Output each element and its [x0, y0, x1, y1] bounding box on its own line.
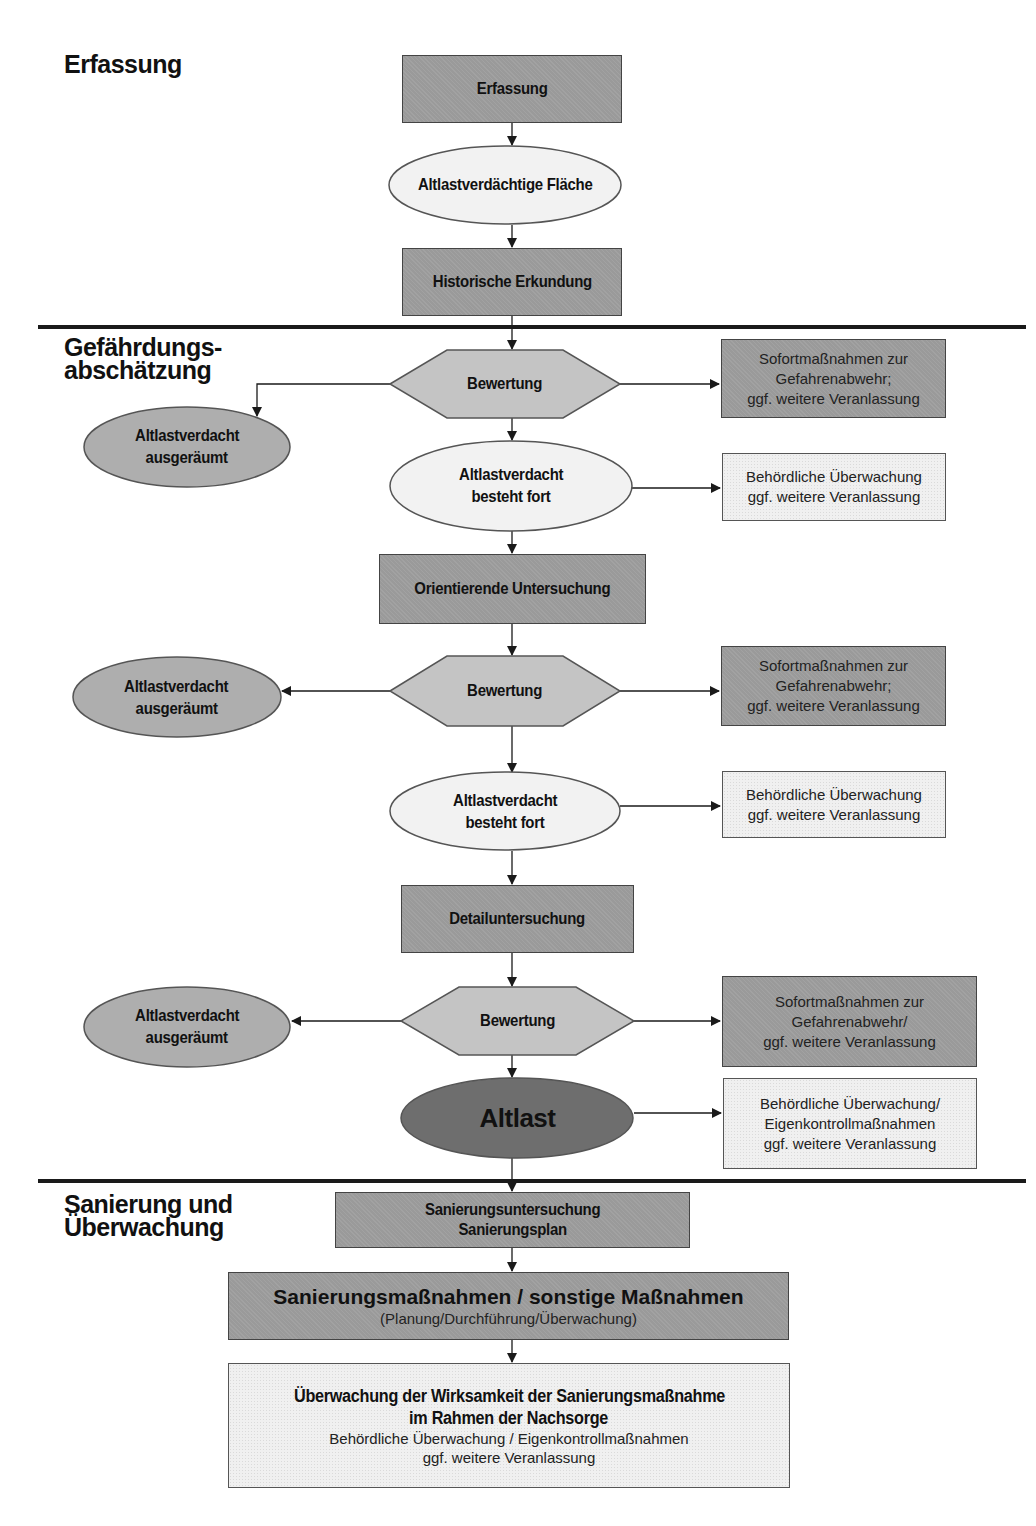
- ellipse-besteht-fort-1: [390, 441, 632, 531]
- box-sofortmassnahmen-1: Sofortmaßnahmen zur Gefahrenabwehr; ggf.…: [721, 339, 946, 418]
- ellipse-altlastverdaechtige-flaeche: [389, 146, 621, 224]
- ellipse-besteht-fort-2: [390, 772, 620, 850]
- box-behoerdliche-ueberwachung-2: Behördliche Überwachung ggf. weitere Ver…: [722, 771, 946, 838]
- box-historische-erkundung: Historische Erkundung: [402, 248, 622, 316]
- hexagon-bewertung-1: [390, 350, 620, 418]
- box-nachsorge-ueberwachung: Überwachung der Wirksamkeit der Sanierun…: [228, 1363, 790, 1488]
- box-orientierende-untersuchung: Orientierende Untersuchung: [379, 554, 646, 624]
- box-sofortmassnahmen-3: Sofortmaßnahmen zur Gefahrenabwehr/ ggf.…: [722, 976, 977, 1067]
- ellipse-ausgeraeumt-2: [73, 657, 281, 737]
- ellipse-ausgeraeumt-3: [84, 987, 290, 1067]
- box-erfassung: Erfassung: [402, 55, 622, 123]
- section-divider-2: [38, 1179, 1026, 1183]
- box-sanierungsuntersuchung: Sanierungsuntersuchung Sanierungsplan: [335, 1192, 690, 1248]
- ellipse-altlast: [401, 1078, 633, 1158]
- hexagon-bewertung-3: [401, 987, 634, 1055]
- section-divider-1: [38, 325, 1026, 329]
- phase-heading-erfassung: Erfassung: [64, 53, 182, 76]
- phase-heading-sanierung: Sanierung und Überwachung: [64, 1193, 233, 1239]
- box-behoerdliche-ueberwachung-1: Behördliche Überwachung ggf. weitere Ver…: [722, 453, 946, 521]
- box-behoerdliche-ueberwachung-3: Behördliche Überwachung/ Eigenkontrollma…: [723, 1078, 977, 1169]
- box-sofortmassnahmen-2: Sofortmaßnahmen zur Gefahrenabwehr; ggf.…: [721, 646, 946, 726]
- box-detailuntersuchung: Detailuntersuchung: [401, 885, 634, 953]
- phase-heading-gefaehrdungsabschaetzung: Gefährdungs- abschätzung: [64, 336, 222, 382]
- ellipse-ausgeraeumt-1: [84, 407, 290, 487]
- hexagon-bewertung-2: [390, 656, 620, 726]
- box-sanierungsmassnahmen: Sanierungsmaßnahmen / sonstige Maßnahmen…: [228, 1272, 789, 1340]
